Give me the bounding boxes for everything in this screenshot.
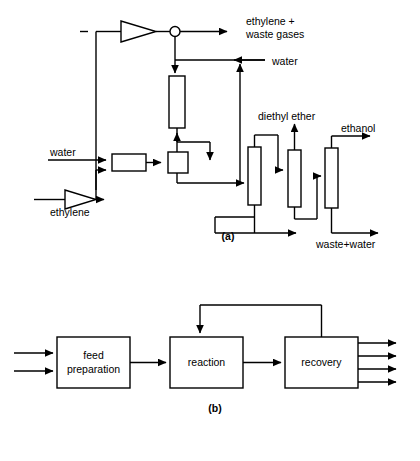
label-purge-line1: ethylene + <box>246 15 295 27</box>
heat-exchanger-box <box>112 154 146 171</box>
label-diethyl-ether: diethyl ether <box>258 110 316 122</box>
distillation-column-2 <box>288 150 301 207</box>
label-waste-water: waste+water <box>315 238 376 250</box>
caption-b: (b) <box>208 402 221 414</box>
block-feed-preparation-label-1: feed <box>83 349 104 361</box>
panel-b: feed preparation reaction recovery (b) <box>14 305 396 414</box>
caption-a: (a) <box>222 230 235 242</box>
mixer-junction-node <box>170 27 180 37</box>
panel-a: ethylene + waste gases water water ethyl… <box>34 15 378 250</box>
preheater-box <box>168 152 188 173</box>
label-ethylene-feed: ethylene <box>50 206 90 218</box>
label-water-quench: water <box>271 55 298 67</box>
block-feed-preparation-label-2: preparation <box>67 363 120 375</box>
reactor-column <box>169 76 185 128</box>
label-water-feed: water <box>49 146 76 158</box>
label-purge-line2: waste gases <box>245 28 304 40</box>
figure-root: ethylene + waste gases water water ethyl… <box>0 0 420 461</box>
block-reaction-label: reaction <box>188 356 226 368</box>
distillation-column-3 <box>325 148 338 208</box>
distillation-column-1 <box>248 147 261 205</box>
label-ethanol: ethanol <box>341 122 375 134</box>
process-flow-diagram: ethylene + waste gases water water ethyl… <box>0 0 420 461</box>
block-recovery-label: recovery <box>301 356 342 368</box>
recycle-compressor-icon <box>121 21 156 42</box>
